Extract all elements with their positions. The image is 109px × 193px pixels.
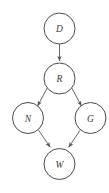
- dag-diagram: D R N G W: [0, 0, 109, 193]
- node-group: D R N G W: [13, 13, 107, 180]
- edge-r-to-n: [38, 88, 48, 106]
- dag-canvas: D R N G W: [0, 0, 109, 193]
- node-n[interactable]: N: [13, 103, 44, 134]
- node-r[interactable]: R: [44, 63, 75, 94]
- node-g-label: G: [87, 114, 94, 124]
- edge-group: [38, 44, 82, 147]
- node-r-label: R: [56, 74, 63, 84]
- node-g[interactable]: G: [75, 103, 106, 134]
- node-d-label: D: [55, 24, 63, 34]
- edge-n-to-w: [39, 130, 51, 147]
- node-w-label: W: [56, 160, 65, 170]
- node-d[interactable]: D: [44, 13, 75, 44]
- edge-r-to-g: [72, 88, 82, 106]
- node-n-label: N: [24, 114, 32, 124]
- edge-g-to-w: [69, 130, 80, 147]
- node-w[interactable]: W: [44, 149, 75, 180]
